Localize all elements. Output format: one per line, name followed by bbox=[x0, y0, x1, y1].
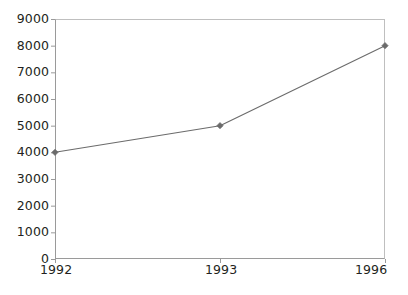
data-point-marker bbox=[382, 42, 388, 48]
series-markers bbox=[52, 42, 388, 155]
data-point-marker bbox=[52, 149, 58, 155]
data-point-marker bbox=[217, 122, 223, 128]
series-line bbox=[55, 46, 385, 153]
x-axis-ticks bbox=[56, 259, 386, 263]
chart-svg-layer bbox=[0, 0, 408, 295]
line-chart: 9000 8000 7000 6000 5000 4000 3000 2000 … bbox=[0, 0, 408, 295]
y-axis-ticks bbox=[51, 20, 55, 260]
